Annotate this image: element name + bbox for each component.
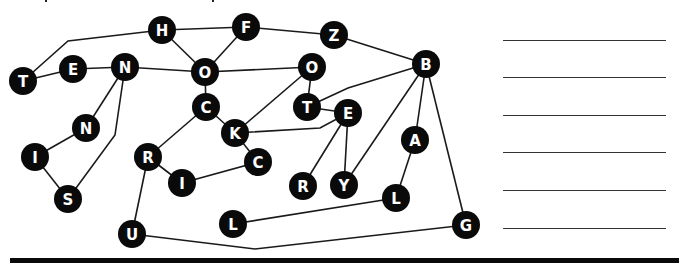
node-b: B: [412, 50, 440, 78]
node-label: B: [420, 56, 431, 74]
node-label: G: [460, 217, 472, 235]
node-label: S: [63, 191, 74, 209]
node-label: E: [343, 105, 353, 123]
node-label: C: [200, 99, 211, 117]
node-label: R: [142, 149, 154, 167]
edge-b-y: [344, 64, 426, 185]
node-label: Z: [329, 27, 340, 45]
node-l2: L: [382, 184, 410, 212]
node-label: H: [156, 22, 169, 40]
answer-line-6[interactable]: [503, 228, 666, 229]
edge-k-e2: [235, 113, 348, 133]
node-label: F: [241, 19, 251, 37]
node-label: T: [18, 73, 29, 91]
node-label: U: [126, 226, 138, 244]
node-label: O: [199, 64, 212, 82]
node-label: L: [228, 216, 238, 234]
edge-b-g: [426, 64, 466, 225]
node-c2: C: [244, 148, 272, 176]
node-t2: T: [293, 93, 321, 121]
node-t1: T: [9, 67, 37, 95]
node-label: I: [32, 149, 38, 167]
edge-u-g: [132, 225, 466, 249]
edge-z-b: [334, 35, 426, 64]
node-o2: O: [298, 53, 326, 81]
node-label: T: [302, 99, 313, 117]
node-f: F: [232, 13, 260, 41]
node-a: A: [401, 126, 429, 154]
edge-l2-l1: [233, 198, 396, 224]
node-s: S: [54, 185, 82, 213]
answer-line-4[interactable]: [503, 152, 666, 153]
node-label: L: [391, 190, 401, 208]
node-g: G: [452, 211, 480, 239]
edge-o1-o2: [205, 67, 312, 72]
node-k: K: [221, 119, 249, 147]
graph-nodes: HFZBTENOOCTEKNIRCAISRYLLGU: [9, 13, 480, 248]
node-label: I: [179, 175, 185, 193]
edge-t1-h: [23, 30, 162, 81]
node-o1: O: [191, 58, 219, 86]
node-h: H: [148, 16, 176, 44]
node-label: O: [306, 59, 319, 77]
node-i1: I: [21, 143, 49, 171]
node-label: N: [80, 120, 93, 138]
node-l1: L: [219, 210, 247, 238]
node-label: C: [252, 154, 263, 172]
node-label: K: [229, 125, 242, 143]
node-i2: I: [168, 169, 196, 197]
bottom-rule: [10, 258, 679, 263]
answer-line-5[interactable]: [503, 190, 666, 191]
node-z: Z: [320, 21, 348, 49]
node-n2: N: [72, 114, 100, 142]
answer-line-1[interactable]: [503, 40, 666, 41]
node-c1: C: [192, 93, 220, 121]
node-r1: R: [134, 143, 162, 171]
node-e2: E: [334, 99, 362, 127]
node-label: E: [68, 61, 78, 79]
node-u: U: [118, 220, 146, 248]
node-label: N: [119, 59, 132, 77]
answer-line-2[interactable]: [503, 77, 666, 78]
node-e1: E: [59, 55, 87, 83]
node-r2: R: [289, 172, 317, 200]
answer-line-3[interactable]: [503, 115, 666, 116]
node-label: R: [297, 178, 309, 196]
node-y: Y: [330, 171, 358, 199]
node-n1: N: [111, 53, 139, 81]
node-label: A: [409, 132, 421, 150]
node-label: Y: [338, 177, 351, 195]
